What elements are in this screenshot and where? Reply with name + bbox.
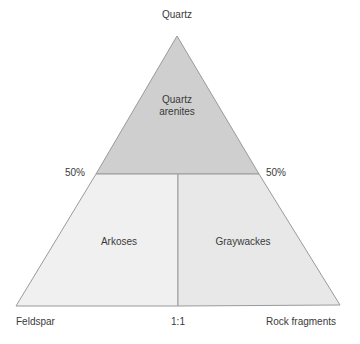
ratio-label: 1:1 [163, 316, 193, 328]
vertex-label-feldspar: Feldspar [16, 316, 55, 328]
region-label-quartz-arenites: Quartz arenites [142, 94, 212, 118]
ternary-diagram [0, 0, 360, 344]
region-label-line2: arenites [142, 106, 212, 118]
vertex-label-rock-fragments: Rock fragments [266, 316, 336, 328]
left-percent-label: 50% [65, 167, 85, 179]
region-label-line1: Quartz [142, 94, 212, 106]
right-percent-label: 50% [266, 167, 286, 179]
region-label-graywackes: Graywackes [198, 236, 288, 248]
region-label-arkoses: Arkoses [84, 236, 154, 248]
vertex-label-quartz: Quartz [147, 9, 207, 21]
